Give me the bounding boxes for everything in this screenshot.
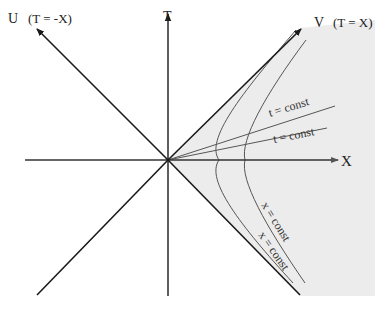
v-axis-label: V	[314, 15, 324, 30]
u-axis	[37, 29, 168, 160]
v-axis-equation: (T = X)	[333, 15, 373, 30]
u-axis-equation: (T = -X)	[28, 11, 72, 26]
x-axis-label: X	[341, 153, 352, 169]
u-axis-label: U	[8, 11, 18, 26]
t-axis-label: T	[163, 9, 172, 24]
rindler-diagram: U (T = -X) T V (T = X) X t = const t = c…	[0, 0, 387, 309]
v-axis-lower	[37, 160, 168, 295]
